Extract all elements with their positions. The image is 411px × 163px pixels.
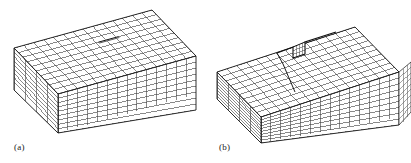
panel-a-drawing [0, 0, 205, 163]
panel-a: (a) [0, 0, 205, 163]
figure-screw-dislocation: (a) [0, 0, 411, 163]
block-a [14, 10, 196, 133]
panel-a-caption: (a) [14, 143, 25, 152]
panel-b-caption: (b) [219, 143, 230, 152]
block-b [217, 27, 411, 143]
block-b-right-face [399, 62, 411, 125]
panel-b-drawing [205, 0, 411, 163]
panel-b: (b) [205, 0, 410, 163]
